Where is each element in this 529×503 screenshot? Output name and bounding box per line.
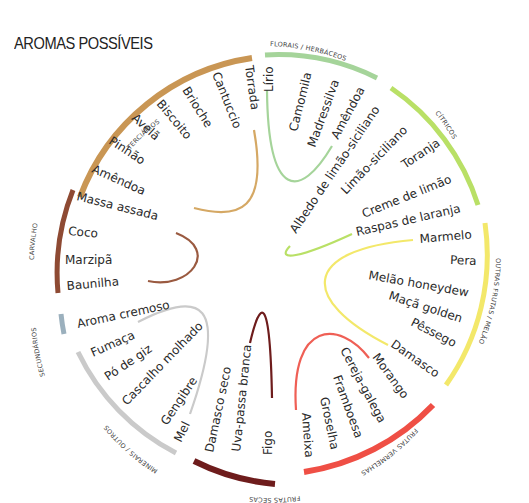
term: Lírio (262, 66, 276, 92)
curve-frutas-secas (250, 313, 272, 398)
term: Mel (171, 419, 193, 444)
arc-secundarios (61, 314, 64, 334)
term: Coco (68, 224, 99, 241)
curve-citricos (286, 234, 352, 256)
label-carvalho: CARVALHO (28, 222, 39, 260)
term: Aroma cremoso (76, 298, 171, 331)
label-florais: FLORAIS / HERBÁCEOS (270, 40, 348, 63)
term: Groselha (317, 396, 342, 451)
term: Camomila (286, 71, 314, 133)
label-frutas-secas: FRUTAS SECAS (249, 494, 301, 503)
term: Marzipã (65, 253, 112, 267)
arc-outras-frutas (446, 223, 487, 385)
label-secundarios: SECUNDÁRIOS (30, 327, 47, 378)
connector-curves (138, 90, 413, 414)
aroma-wheel: TERCIÁRIOS FLORAIS / HERBÁCEOS CÍTRICOS … (0, 0, 529, 503)
term: Pera (450, 253, 477, 268)
terms-carvalho: Massa assada Coco Marzipã Baunilha (65, 189, 160, 293)
curve-carvalho (148, 233, 198, 282)
term: Baunilha (66, 274, 119, 293)
terms-secundarios: Aroma cremoso (76, 298, 171, 331)
term: Massa assada (75, 189, 159, 223)
term: Marmelo (419, 227, 472, 245)
term: Melão honeydew (367, 268, 470, 299)
term: Uva-passa branca (229, 344, 254, 453)
curve-terciarios (194, 130, 258, 212)
term: Torrada (242, 63, 262, 110)
arc-florais (265, 55, 377, 78)
terms-frutas-vermelhas: Morango Cereja-galega Framboesa Groselha… (299, 345, 412, 458)
terms-frutas-secas: Damasco seco Uva-passa branca Figo (202, 344, 275, 455)
label-citricos: CÍTRICOS (433, 109, 458, 140)
term: Figo (261, 431, 275, 455)
label-minerais: MINERAIS / OUTROS (102, 423, 159, 475)
term: Toranja (398, 136, 442, 172)
category-arcs (57, 55, 487, 484)
term: Ameixa (299, 412, 316, 458)
arc-frutas-secas (194, 461, 275, 484)
term: Amêndoa (90, 162, 148, 198)
arc-carvalho (57, 190, 73, 293)
